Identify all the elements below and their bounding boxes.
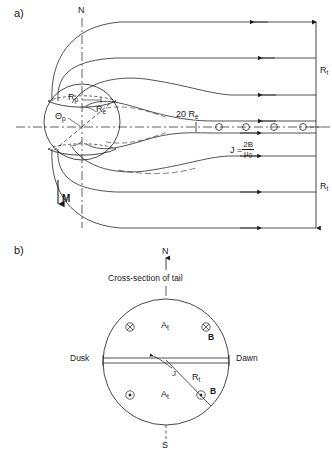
dawn-label: Dawn — [236, 354, 258, 363]
tail-radius-label-north: Rt — [320, 66, 328, 77]
vector-potential-north-label: At — [161, 321, 169, 332]
polar-cap-angle-arc — [82, 107, 96, 112]
plasma-sheet-edge-north — [106, 107, 168, 118]
field-into-page-symbol-right — [202, 323, 210, 331]
current-direction-arrow — [150, 355, 172, 368]
field-out-of-page-symbol-right — [197, 391, 205, 399]
panel-b-south-label: S — [162, 441, 168, 450]
vector-potential-south-label: At — [161, 390, 169, 401]
panel-b-tail-radius-label: Rt — [192, 373, 200, 384]
field-out-of-page-symbol-left — [126, 391, 134, 399]
polar-cap-angle-leader — [68, 118, 80, 126]
earth-radius-label: Re — [96, 105, 106, 116]
dusk-label: Dusk — [70, 354, 89, 363]
current-sheet-j-label: J — [172, 370, 176, 378]
field-line-n3 — [72, 78, 316, 103]
magnetic-moment-label: M — [62, 194, 70, 204]
polar-cap-angle-label: Θp — [55, 112, 66, 123]
earth-radius-line-south — [52, 127, 82, 152]
tail-radius-label-south: Rt — [320, 182, 328, 193]
panel-b-caption: Cross-section of tail — [108, 274, 183, 283]
panel-b-tail-radius-line — [166, 360, 211, 406]
field-label-south: B — [210, 387, 216, 396]
field-line-s4 — [86, 133, 316, 149]
panel-b-label: b) — [14, 245, 24, 256]
field-line-s1 — [52, 149, 316, 228]
field-line-n2 — [58, 58, 316, 101]
field-label-north: B — [208, 333, 214, 342]
plasma-sheet-edge-south — [106, 132, 168, 143]
field-line-n1 — [52, 22, 316, 101]
field-line-s2 — [58, 149, 316, 192]
figure-magnetotail: a) N Rp Θp Re M 20 Re J =2Bμ0 Rt Rt b) N… — [0, 0, 332, 456]
polar-cap-radius-label: Rp — [68, 93, 78, 104]
panel-a-north-label: N — [78, 6, 85, 15]
current-sheet-formula: J =2Bμ0 — [230, 141, 254, 160]
field-line-n4 — [86, 101, 316, 121]
panel-a-label: a) — [14, 8, 24, 19]
distance-tick-label: 20 Re — [176, 110, 199, 121]
panel-b-north-label: N — [162, 247, 169, 256]
panel-a-drawing — [0, 0, 332, 456]
field-line-s3 — [72, 147, 316, 172]
tail-cross-section-circle — [103, 299, 229, 425]
field-into-page-symbol-left — [126, 323, 134, 331]
